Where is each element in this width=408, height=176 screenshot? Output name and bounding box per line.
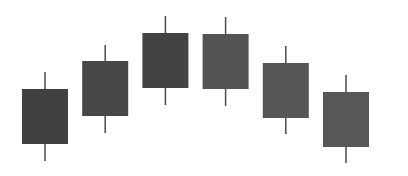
candle-body: [263, 63, 309, 118]
candle-1: [22, 72, 68, 161]
candle-body: [323, 92, 369, 147]
candle-body: [142, 33, 188, 88]
candle-body: [82, 61, 128, 116]
candles-group: [22, 16, 369, 163]
candlestick-chart: [0, 0, 408, 176]
candle-2: [82, 45, 128, 133]
candle-4: [203, 17, 249, 106]
candle-3: [142, 16, 188, 105]
candle-body: [203, 34, 249, 89]
candle-5: [263, 46, 309, 134]
candle-body: [22, 89, 68, 144]
candle-6: [323, 75, 369, 163]
